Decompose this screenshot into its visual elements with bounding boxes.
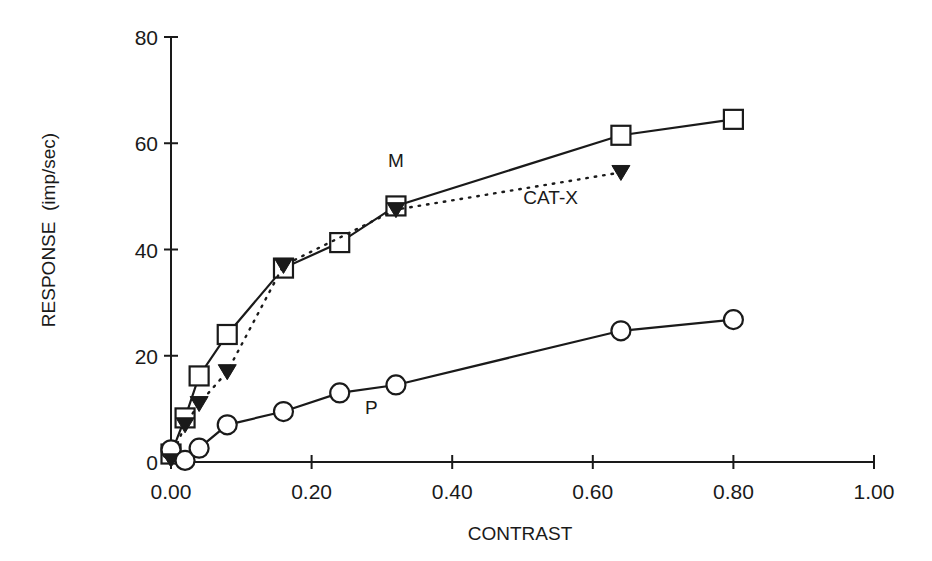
series-p: P — [162, 310, 743, 470]
circle-marker-icon — [190, 439, 209, 458]
series-label: CAT-X — [523, 187, 578, 208]
square-marker-icon — [611, 126, 630, 145]
y-tick-label: 80 — [135, 26, 158, 49]
contrast-response-chart: 0.000.200.400.600.801.00020406080 MCAT-X… — [0, 0, 932, 561]
circle-marker-icon — [218, 415, 237, 434]
square-marker-icon — [330, 233, 349, 252]
x-tick-label: 0.00 — [151, 480, 192, 503]
x-tick-label: 1.00 — [854, 480, 895, 503]
y-tick-label: 20 — [135, 345, 158, 368]
series-label: P — [365, 397, 378, 418]
square-marker-icon — [218, 325, 237, 344]
x-tick-label: 0.40 — [432, 480, 473, 503]
square-marker-icon — [724, 110, 743, 129]
circle-marker-icon — [386, 375, 405, 394]
triangle-marker-icon — [613, 166, 629, 179]
y-axis-title: RESPONSE (imp/sec) — [38, 133, 59, 327]
series-layer: MCAT-XP — [162, 110, 743, 470]
triangle-marker-icon — [219, 366, 235, 379]
circle-marker-icon — [611, 321, 630, 340]
x-tick-label: 0.80 — [713, 480, 754, 503]
circle-marker-icon — [330, 383, 349, 402]
square-marker-icon — [190, 366, 209, 385]
y-tick-label: 60 — [135, 132, 158, 155]
series-line — [171, 320, 733, 461]
circle-marker-icon — [274, 402, 293, 421]
series-m: M — [162, 110, 743, 464]
series-label: M — [388, 150, 404, 171]
x-axis-title: CONTRAST — [468, 523, 573, 544]
circle-marker-icon — [724, 310, 743, 329]
y-tick-label: 0 — [146, 451, 158, 474]
series-line — [171, 119, 733, 454]
y-tick-label: 40 — [135, 239, 158, 262]
x-tick-label: 0.20 — [291, 480, 332, 503]
axes: 0.000.200.400.600.801.00020406080 — [135, 26, 895, 503]
x-tick-label: 0.60 — [572, 480, 613, 503]
